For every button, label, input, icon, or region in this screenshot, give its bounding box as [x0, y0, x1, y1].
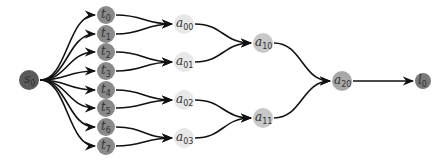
edge-a01-a10: [195, 43, 251, 62]
node-a20: a20: [332, 71, 352, 91]
node-a00: a00: [174, 14, 194, 34]
node-t6: t6: [97, 118, 115, 136]
edge-t4-a02: [116, 90, 172, 100]
edge-a10-a20: [274, 43, 330, 81]
edge-a02-a11: [195, 100, 251, 118]
node-t7: t7: [97, 137, 115, 155]
edge-t2-a01: [116, 52, 172, 62]
edges-layer: [40, 15, 413, 146]
edge-t1-a00: [116, 24, 172, 34]
node-t5: t5: [97, 99, 115, 117]
edge-t5-a02: [116, 100, 172, 108]
edge-t6-a03: [116, 127, 172, 138]
node-t3: t3: [97, 62, 115, 80]
node-l0: l0: [415, 73, 431, 89]
node-t4: t4: [97, 81, 115, 99]
node-a02: a02: [174, 90, 194, 110]
edge-a11-a20: [274, 81, 330, 118]
edge-s0-t6: [40, 80, 95, 127]
edge-s0-t0: [40, 15, 95, 80]
node-t0: t0: [97, 6, 115, 24]
edge-a00-a10: [195, 24, 251, 43]
edge-s0-t1: [40, 34, 95, 80]
node-a03: a03: [174, 128, 194, 148]
node-a01: a01: [174, 52, 194, 72]
tree-diagram: s0t0t1t2t3t4t5t6t7a00a01a02a03a10a11a20l…: [0, 0, 446, 162]
node-a10: a10: [253, 33, 273, 53]
edge-t0-a00: [116, 15, 172, 24]
edge-t7-a03: [116, 138, 172, 146]
node-a11: a11: [253, 108, 273, 128]
node-t1: t1: [97, 25, 115, 43]
edge-a03-a11: [195, 118, 251, 138]
node-t2: t2: [97, 43, 115, 61]
node-s0: s0: [19, 70, 39, 90]
edge-t3-a01: [116, 62, 172, 71]
